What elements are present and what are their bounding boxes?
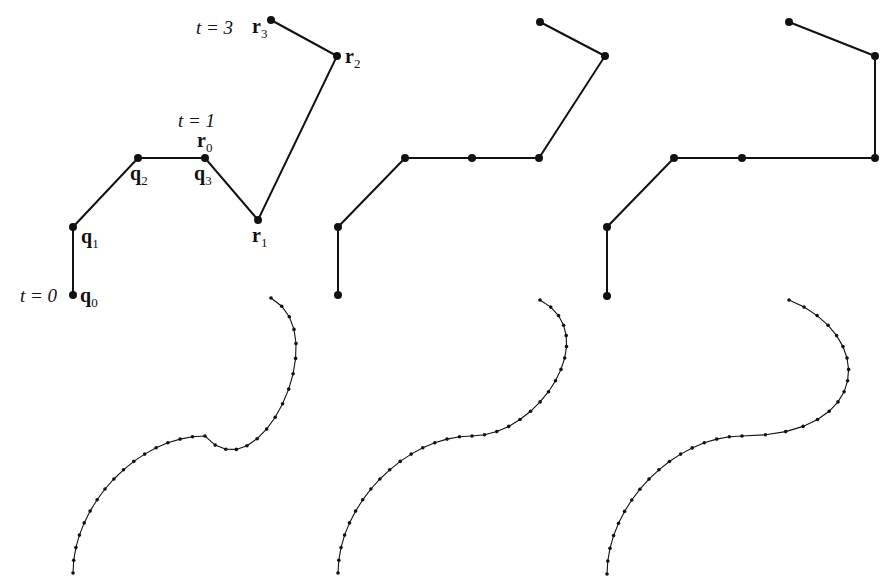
curve-sample-point	[559, 368, 563, 372]
curve-sample-point	[74, 546, 78, 550]
control-point	[670, 154, 678, 162]
curve-sample-point	[841, 345, 845, 349]
curve-sample-point	[273, 415, 277, 419]
curve-sample-point	[557, 314, 561, 318]
curve-sample-point	[71, 571, 75, 575]
curve-sample-point	[554, 379, 558, 383]
label-q2: q2	[130, 162, 148, 188]
curve-sample-point	[835, 334, 839, 338]
curve-sample-point	[292, 328, 296, 332]
curve-sample-point	[549, 305, 553, 309]
curve-sample-point	[281, 402, 285, 406]
label-r0: r0	[197, 129, 212, 155]
curve-sample-point	[827, 410, 831, 414]
control-point	[333, 52, 341, 60]
control-point	[69, 291, 77, 299]
control-point	[254, 216, 262, 224]
curve-sample-point	[608, 547, 612, 551]
curve-sample-point	[103, 487, 107, 491]
curve-sample-point	[224, 448, 228, 452]
curve-sample-point	[801, 425, 805, 429]
curve-sample-point	[191, 435, 195, 439]
curve-sample-point	[336, 571, 340, 575]
curve-sample-point	[265, 427, 269, 431]
curve-sample-point	[563, 356, 567, 360]
curve-sample-point	[78, 533, 82, 537]
label-q1: q1	[81, 225, 99, 251]
label-t0: t = 0	[20, 285, 58, 306]
curve-sample-point	[72, 559, 76, 563]
label-q0: q0	[80, 284, 98, 310]
control-point	[738, 154, 746, 162]
curve-sample-point	[287, 387, 291, 391]
curve-sample-point	[95, 498, 99, 502]
curve-sample-point	[88, 509, 92, 513]
curve-sample-point	[657, 468, 661, 472]
curve-sample-point	[507, 425, 511, 429]
curve-sample-point	[388, 468, 392, 472]
curve-sample-point	[445, 437, 449, 441]
curve-sample-point	[337, 559, 341, 563]
control-point	[603, 292, 611, 300]
curve-sample-point	[354, 509, 358, 513]
curve-sample-point	[847, 368, 851, 372]
curve-sample-point	[617, 522, 621, 526]
curve-sample-point	[538, 298, 542, 302]
curve-sample-point	[339, 546, 343, 550]
curve-sample-point	[470, 434, 474, 438]
curve-sample-point	[606, 559, 610, 563]
curve-sample-point	[255, 437, 259, 441]
curve-sample-point	[630, 498, 634, 502]
curve-sample-point	[623, 510, 627, 514]
control-point	[785, 18, 793, 26]
curve-sample-point	[815, 314, 819, 318]
curve-sample-point	[361, 498, 365, 502]
curve-sample-point	[483, 433, 487, 437]
curve-sample-point	[112, 477, 116, 481]
control-point	[201, 154, 209, 162]
curve-sample-point	[842, 390, 846, 394]
bezier-curve-2	[338, 300, 567, 573]
curve-sample-point	[826, 323, 830, 327]
control-point	[535, 154, 543, 162]
bezier-figure: t = 0 t = 1 t = 3 q0 q1 q2 q3 r0 r1 r2 r…	[0, 0, 895, 588]
control-point	[134, 154, 142, 162]
curve-sample-point	[154, 446, 158, 450]
curve-sample-point	[605, 572, 609, 576]
control-point	[601, 52, 609, 60]
label-r3: r3	[252, 15, 267, 41]
control-point	[69, 223, 77, 231]
curve-sample-point	[458, 435, 462, 439]
curve-sample-point	[178, 437, 182, 441]
curve-sample-point	[203, 434, 207, 438]
curve-sample-point	[409, 452, 413, 456]
control-point	[267, 16, 275, 24]
curve-sample-point	[378, 477, 382, 481]
bezier-curve-1	[73, 298, 296, 573]
curve-sample-point	[132, 460, 136, 464]
curve-sample-point	[538, 400, 542, 404]
curve-sample-point	[291, 372, 295, 376]
curve-sample-point	[518, 418, 522, 422]
curve-sample-point	[495, 430, 499, 434]
control-point	[401, 154, 409, 162]
curve-sample-point	[845, 356, 849, 360]
curve-sample-point	[433, 441, 437, 445]
curve-sample-point	[421, 446, 425, 450]
curve-sample-point	[638, 487, 642, 491]
panel-1-labels: t = 0 t = 1 t = 3 q0 q1 q2 q3 r0 r1 r2 r…	[20, 15, 360, 310]
curve-sample-point	[294, 342, 298, 346]
label-t3: t = 3	[196, 17, 233, 38]
curve-sample-point	[647, 477, 651, 481]
curve-sample-point	[565, 345, 569, 349]
label-t1: t = 1	[178, 110, 215, 131]
control-polygons	[69, 16, 879, 300]
label-r1: r1	[252, 224, 267, 250]
label-r2: r2	[345, 45, 360, 71]
curve-sample-point	[529, 410, 533, 414]
curve-sample-point	[245, 444, 249, 448]
curve-sample-point	[784, 430, 788, 434]
curve-sample-point	[728, 435, 732, 439]
curve-sample-point	[740, 434, 744, 438]
curve-sample-point	[369, 487, 373, 491]
